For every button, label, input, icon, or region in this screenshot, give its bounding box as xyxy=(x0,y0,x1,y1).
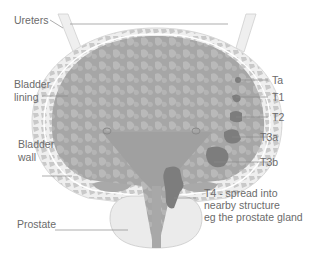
label-t1: T1 xyxy=(272,91,284,103)
label-t4-line3: eg the prostate gland xyxy=(204,211,303,223)
label-bladder-lining-line2: lining xyxy=(14,91,39,103)
label-prostate: Prostate xyxy=(17,218,56,230)
label-t3a: T3a xyxy=(260,131,278,143)
label-t4-line2: nearby structure xyxy=(204,199,280,211)
label-t4-line1: T4 - spread into xyxy=(204,187,278,199)
label-t3b: T3b xyxy=(260,156,278,168)
label-bladder-wall-line1: Bladder xyxy=(18,138,54,150)
urethra xyxy=(152,186,161,248)
label-bladder-wall-line2: wall xyxy=(18,151,36,163)
label-ureters: Ureters xyxy=(14,14,48,26)
label-ta: Ta xyxy=(272,74,283,86)
label-t2: T2 xyxy=(272,111,284,123)
tumour-t2 xyxy=(230,111,242,122)
bladder-staging-diagram: Ureters Bladder lining Bladder wall Pros… xyxy=(0,0,313,254)
label-bladder-lining-line1: Bladder xyxy=(14,78,50,90)
